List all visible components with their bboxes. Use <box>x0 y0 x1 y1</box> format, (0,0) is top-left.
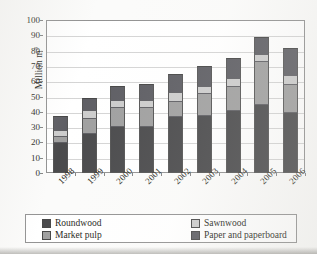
chart-figure: Million m3 0102030405060708090100 199819… <box>0 0 317 254</box>
y-axis-tick-mark <box>40 20 43 21</box>
bar-segment-market-pulp[interactable] <box>168 101 183 116</box>
bar-segment-roundwood[interactable] <box>82 133 97 173</box>
bar-2004[interactable] <box>226 58 241 173</box>
legend-label: Market pulp <box>55 230 102 241</box>
y-axis-tick-mark <box>40 158 43 159</box>
legend-entry-sawnwood: Sawnwood <box>187 218 246 229</box>
y-axis-tick-mark <box>40 127 43 128</box>
legend-swatch-icon <box>191 219 200 228</box>
y-axis-tick-mark <box>40 112 43 113</box>
bar-2003[interactable] <box>197 66 212 173</box>
bar-segment-market-pulp[interactable] <box>254 61 269 104</box>
bar-segment-sawnwood[interactable] <box>139 100 154 108</box>
bar-2000[interactable] <box>110 86 125 173</box>
bar-segment-roundwood[interactable] <box>168 116 183 173</box>
bar-segment-paper-and-paperboard[interactable] <box>254 37 269 54</box>
y-axis-tick-label: 100 <box>27 16 41 25</box>
bar-segment-sawnwood[interactable] <box>226 78 241 86</box>
y-axis-tick-label: 50 <box>31 92 40 101</box>
bar-segment-market-pulp[interactable] <box>283 84 298 112</box>
y-axis-tick-mark <box>40 173 43 174</box>
legend-swatch-icon <box>42 231 51 240</box>
bar-1999[interactable] <box>82 98 97 173</box>
y-axis-tick-label: 90 <box>31 31 40 40</box>
bar-segment-paper-and-paperboard[interactable] <box>139 84 154 99</box>
bar-segment-paper-and-paperboard[interactable] <box>82 98 97 110</box>
legend-row: Market pulp Paper and paperboard <box>26 229 296 241</box>
bar-segment-roundwood[interactable] <box>254 104 269 173</box>
bar-segment-market-pulp[interactable] <box>110 107 125 125</box>
bar-segment-roundwood[interactable] <box>197 115 212 173</box>
legend-swatch-icon <box>42 219 51 228</box>
bar-segment-paper-and-paperboard[interactable] <box>53 116 68 130</box>
chart-legend: Roundwood Sawnwood Market pulp Paper and… <box>25 214 297 243</box>
legend-label: Paper and paperboard <box>204 230 287 241</box>
y-axis-tick-label: 70 <box>31 61 40 70</box>
bar-2001[interactable] <box>139 84 154 173</box>
bar-segment-sawnwood[interactable] <box>110 100 125 108</box>
bar-segment-market-pulp[interactable] <box>197 93 212 114</box>
bar-segment-paper-and-paperboard[interactable] <box>283 48 298 76</box>
bar-segment-roundwood[interactable] <box>110 126 125 173</box>
y-axis-tick-mark <box>40 35 43 36</box>
bar-segment-market-pulp[interactable] <box>226 86 241 110</box>
legend-entry-roundwood: Roundwood <box>26 218 187 229</box>
bars-layer <box>46 20 305 173</box>
bar-segment-sawnwood[interactable] <box>283 75 298 84</box>
bar-2005[interactable] <box>254 37 269 173</box>
y-axis-tick-label: 10 <box>31 153 40 162</box>
y-axis-tick-mark <box>40 51 43 52</box>
bar-1998[interactable] <box>53 116 68 173</box>
y-axis-tick-mark <box>40 66 43 67</box>
y-axis-tick-label: 40 <box>31 107 40 116</box>
bar-segment-paper-and-paperboard[interactable] <box>110 86 125 100</box>
bar-2002[interactable] <box>168 74 183 173</box>
bar-segment-roundwood[interactable] <box>139 126 154 173</box>
bar-segment-paper-and-paperboard[interactable] <box>168 74 183 92</box>
y-axis-tick-mark <box>40 97 43 98</box>
y-axis-tick-mark <box>40 142 43 143</box>
bar-segment-sawnwood[interactable] <box>197 86 212 94</box>
bar-segment-sawnwood[interactable] <box>168 92 183 101</box>
legend-label: Roundwood <box>55 218 101 229</box>
bar-segment-roundwood[interactable] <box>226 110 241 173</box>
y-axis-tick-label: 20 <box>31 138 40 147</box>
legend-label: Sawnwood <box>204 218 246 229</box>
y-axis-tick-mark <box>40 81 43 82</box>
bar-segment-paper-and-paperboard[interactable] <box>197 66 212 86</box>
bar-segment-paper-and-paperboard[interactable] <box>226 58 241 78</box>
bar-segment-sawnwood[interactable] <box>254 54 269 62</box>
bar-segment-market-pulp[interactable] <box>82 118 97 133</box>
scan-edge-shadow <box>0 247 317 254</box>
y-axis-tick-label: 60 <box>31 77 40 86</box>
bar-2006[interactable] <box>283 48 298 173</box>
legend-entry-market-pulp: Market pulp <box>26 230 187 241</box>
bar-segment-market-pulp[interactable] <box>139 107 154 125</box>
x-axis-tick-labels: 199819992000200120022003200420052006 <box>46 173 305 213</box>
y-axis-tick-label: 80 <box>31 46 40 55</box>
bar-segment-sawnwood[interactable] <box>82 110 97 118</box>
legend-swatch-icon <box>191 231 200 240</box>
legend-entry-paper-and-paperboard: Paper and paperboard <box>187 230 287 241</box>
y-axis-tick-labels: 0102030405060708090100 <box>14 20 43 173</box>
legend-row: Roundwood Sawnwood <box>26 217 296 229</box>
bar-segment-roundwood[interactable] <box>283 112 298 173</box>
y-axis-tick-label: 30 <box>31 123 40 132</box>
